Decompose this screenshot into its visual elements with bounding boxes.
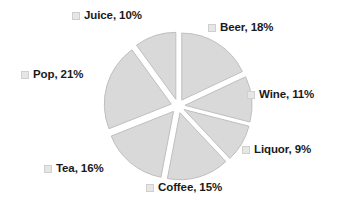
legend-marker-icon [72,12,80,20]
pie-label-wine-text: Wine, 11% [259,88,314,101]
pie-label-tea: Tea, 16% [44,162,104,175]
pie-chart: Juice, 10% Beer, 18% Wine, 11% Liquor, 9… [0,0,351,209]
legend-marker-icon [247,91,255,99]
legend-marker-icon [44,165,52,173]
pie-label-pop-text: Pop, 21% [33,68,83,81]
pie-label-wine: Wine, 11% [247,88,314,101]
legend-marker-icon [21,71,29,79]
pie-label-beer: Beer, 18% [208,21,273,34]
pie-label-pop: Pop, 21% [21,68,83,81]
legend-marker-icon [208,24,216,32]
legend-marker-icon [146,184,154,192]
pie-label-beer-text: Beer, 18% [220,21,273,34]
pie-label-liquor: Liquor, 9% [242,143,311,156]
pie-label-coffee: Coffee, 15% [146,181,222,194]
pie-label-liquor-text: Liquor, 9% [254,143,311,156]
pie-label-tea-text: Tea, 16% [56,162,104,175]
pie-chart-canvas [0,0,351,209]
pie-label-juice: Juice, 10% [72,9,142,22]
pie-slice-group [104,32,252,179]
legend-marker-icon [242,146,250,154]
pie-label-juice-text: Juice, 10% [84,9,142,22]
pie-label-coffee-text: Coffee, 15% [158,181,222,194]
